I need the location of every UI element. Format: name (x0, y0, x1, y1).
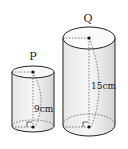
label-q: Q (83, 12, 92, 25)
cylinder-p (12, 66, 54, 132)
height-label-p: 9cm (34, 104, 54, 114)
height-label-q: 15cm (91, 81, 116, 91)
label-p: P (29, 50, 37, 63)
cylinders-diagram: P 9cm Q 15cm (0, 0, 128, 149)
